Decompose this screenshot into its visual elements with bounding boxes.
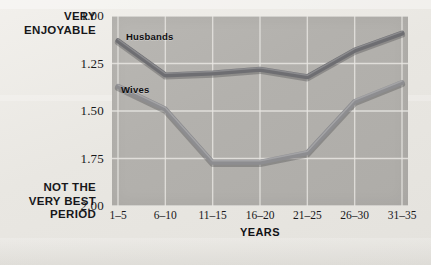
x-axis-title: YEARS — [112, 226, 408, 238]
y-axis-tick-label: 1.25 — [58, 56, 104, 72]
x-axis-tick-label: 16–20 — [246, 209, 275, 221]
x-axis-ticks: 1–56–1011–1516–2021–2526–3031–35 — [112, 209, 408, 225]
x-axis-tick-label: 1–5 — [109, 209, 126, 221]
y-axis-tick-label: 1.75 — [58, 151, 104, 167]
series-label-husbands: Husbands — [126, 31, 174, 42]
x-axis-tick-label: 21–25 — [293, 209, 322, 221]
chart-svg — [112, 16, 408, 206]
x-axis-tick-label: 31–35 — [388, 209, 417, 221]
x-axis-tick-label: 26–30 — [340, 209, 369, 221]
chart-container: VERY ENJOYABLE NOT THE VERY BEST PERIOD … — [0, 0, 431, 265]
plot-area — [112, 16, 408, 206]
y-axis-tick-label: 2.00 — [58, 198, 104, 214]
y-axis-tick-label: 1.50 — [58, 103, 104, 119]
series-label-wives: Wives — [121, 84, 149, 95]
y-axis-tick-label: 1.00 — [58, 8, 104, 24]
x-axis-tick-label: 11–15 — [198, 209, 226, 221]
x-axis-tick-label: 6–10 — [154, 209, 177, 221]
y-axis-ticks: 1.001.251.501.752.00 — [56, 0, 104, 265]
